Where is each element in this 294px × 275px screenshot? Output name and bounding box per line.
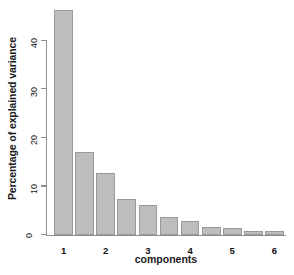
y-axis-tick-label-text: 10: [29, 184, 39, 194]
bar: [96, 173, 115, 234]
y-axis-tick-label-text: 0: [24, 233, 34, 238]
bar-group: 9: [222, 5, 243, 235]
bar-group: 5: [137, 5, 158, 235]
bar: [181, 221, 200, 234]
y-axis-tick: [41, 137, 46, 138]
scree-plot-chart: Percentage of explained variance 0102030…: [0, 0, 294, 275]
bar-group: 6: [158, 5, 179, 235]
y-axis-tick-label-text: 20: [29, 135, 39, 145]
y-axis-tick-label: 40: [0, 34, 38, 46]
bar: [223, 228, 242, 235]
x-axis-line: [46, 235, 286, 236]
bar: [244, 231, 263, 235]
bar-group: 10: [243, 5, 264, 235]
bar-group: 11: [264, 5, 285, 235]
bar-group: 2: [74, 5, 95, 235]
bar: [54, 10, 73, 235]
y-axis-tick-label: 20: [0, 131, 38, 143]
y-axis-tick-label: 10: [0, 180, 38, 192]
y-axis-line: [46, 40, 47, 235]
bar-group: 7: [180, 5, 201, 235]
y-axis-tick: [41, 40, 46, 41]
y-axis-tick-label-text: 30: [29, 87, 39, 97]
x-axis-title: components: [46, 253, 286, 265]
bar: [75, 152, 94, 234]
plot-area: 1234567891011: [53, 5, 285, 235]
y-axis-tick: [41, 185, 46, 186]
bar-group: 8: [201, 5, 222, 235]
bar-group: 1: [53, 5, 74, 235]
bar-group: 4: [116, 5, 137, 235]
bar: [117, 199, 136, 235]
y-axis-tick: [41, 88, 46, 89]
y-axis-tick-label-text: 40: [29, 38, 39, 48]
y-axis-tick-label: 30: [0, 83, 38, 95]
bar: [160, 217, 179, 235]
bar: [202, 227, 221, 234]
y-axis-tick-label: 0: [0, 229, 38, 241]
bar: [265, 231, 284, 235]
bar-group: 3: [95, 5, 116, 235]
bar: [139, 205, 158, 234]
